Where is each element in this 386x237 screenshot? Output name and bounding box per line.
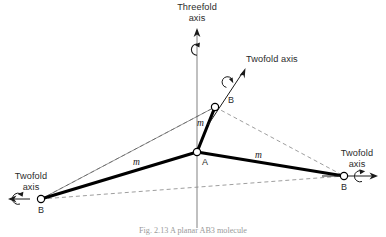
- bond-label-upper: m: [197, 118, 204, 128]
- threefold-rotation-symbol: [191, 42, 199, 55]
- threefold-axis-label: Threefold axis: [163, 2, 231, 24]
- twofold-axis-right-group: [322, 169, 378, 182]
- twofold-rotation-arrowhead-upper-right: [229, 78, 233, 84]
- twofold-axis-left-label: Twofold axis: [6, 171, 56, 193]
- twofold-rotation-arc-upper-right: [222, 77, 231, 88]
- twofold-axis-right-label-line2: axis: [332, 159, 382, 170]
- atom-b-left: [37, 195, 44, 202]
- bond-a-to-upper-b: [197, 107, 215, 152]
- twofold-axis-right-label-line1: Twofold: [332, 148, 382, 159]
- atom-label-a: A: [202, 157, 208, 167]
- twofold-axis-upper-right-group: [208, 68, 246, 125]
- figure-caption: Fig. 2.13 A planar AB3 molecule: [0, 226, 386, 235]
- atom-label-b-right: B: [341, 182, 347, 192]
- bond-label-left: m: [133, 157, 140, 167]
- bond-a-to-left-b: [41, 152, 197, 199]
- twofold-axis-upper-right-line: [208, 72, 243, 125]
- threefold-axis-label-line2: axis: [163, 13, 231, 24]
- twofold-axis-upper-right-label-line1: Twofold axis: [246, 54, 298, 65]
- threefold-axis-label-line1: Threefold: [163, 2, 231, 13]
- figure-container: Threefold axis Twofold axis Twofold axis…: [0, 0, 386, 237]
- bond-label-right: m: [255, 150, 262, 160]
- bonds-group: [41, 107, 344, 199]
- threefold-axis-line-group: [194, 28, 201, 228]
- twofold-axis-left-label-line2: axis: [6, 182, 56, 193]
- twofold-axis-left-label-line1: Twofold: [6, 171, 56, 182]
- dashed-edge-left-right: [41, 176, 344, 199]
- atom-a-center: [193, 148, 200, 155]
- atom-label-b-left: B: [38, 205, 44, 215]
- atom-b-upper: [211, 103, 218, 110]
- molecule-symmetry-diagram: [0, 0, 386, 237]
- twofold-axis-upper-right-label: Twofold axis: [246, 54, 298, 65]
- twofold-axis-left-group: [8, 192, 30, 205]
- atom-b-right: [340, 172, 347, 179]
- twofold-axis-right-label: Twofold axis: [332, 148, 382, 170]
- atom-label-b-upper: B: [228, 95, 234, 105]
